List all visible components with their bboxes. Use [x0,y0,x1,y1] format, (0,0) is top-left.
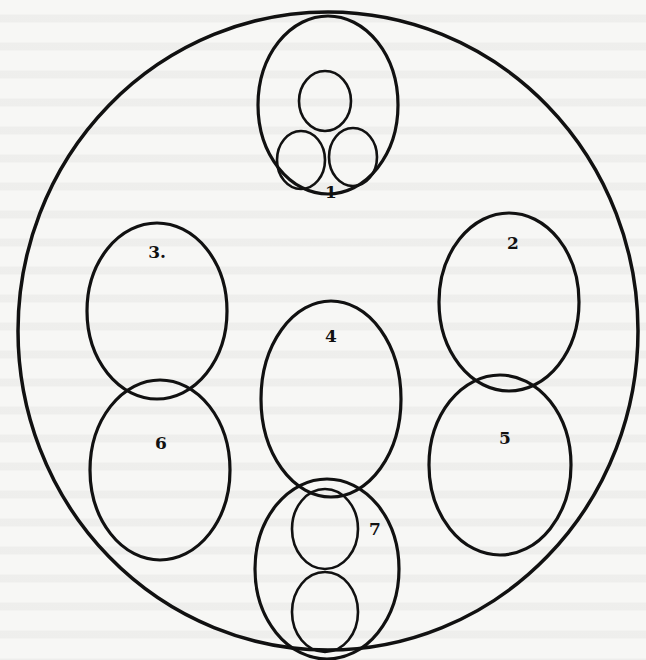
circle-6-label: 6 [155,433,167,453]
circle-7-label: 7 [369,519,381,539]
circle-5-label: 5 [499,428,511,448]
circle-5-ring [429,375,571,555]
circle-4-label: 4 [325,326,337,346]
circle-7-sub-circle-1 [292,489,358,569]
circle-1-sub-circle-3 [329,128,377,186]
circle-1-label: 1 [325,182,337,202]
circle-1-sub-circle-1 [299,71,351,131]
diagram-stage: 123.4567 1 2 3. 4 5 6 7 [0,0,646,660]
circle-1-sub-circle-2 [277,131,325,189]
circle-2-label: 2 [507,233,519,253]
circle-7-sub-circle-2 [292,572,358,652]
circle-diagram: 123.4567 [0,0,646,660]
circle-3-label: 3. [148,242,166,262]
circle-6-ring [90,380,230,560]
